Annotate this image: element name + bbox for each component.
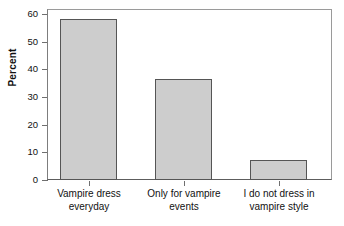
y-tick-label: 50 xyxy=(12,37,38,47)
bar-only-for-vampire-events xyxy=(155,79,212,180)
x-tick-mark xyxy=(184,181,185,186)
y-tick-label: 10 xyxy=(12,147,38,157)
y-tick-label-group-20: 20 xyxy=(10,120,38,130)
y-tick-label: 0 xyxy=(12,175,38,185)
y-tick-label: 30 xyxy=(12,92,38,102)
y-tick-label-group-30: 30 xyxy=(10,92,38,102)
x-axis-label-only-for-vampire-events: Only for vampire events xyxy=(132,188,236,213)
y-tick-mark xyxy=(42,180,48,181)
y-tick-label: 40 xyxy=(12,64,38,74)
y-tick-label-group-50: 50 xyxy=(10,37,38,47)
y-tick-label-group-10: 10 xyxy=(10,147,38,157)
x-axis-label-vampire-dress-everyday: Vampire dress everyday xyxy=(37,188,141,213)
y-tick-label-group-0: 0 xyxy=(10,175,38,185)
y-tick-label: 20 xyxy=(12,120,38,130)
x-axis-label-i-do-not-dress-in-vampire-style: I do not dress in vampire style xyxy=(227,188,331,213)
y-tick-label-group-40: 40 xyxy=(10,64,38,74)
x-tick-mark xyxy=(89,181,90,186)
bar-chart: Percent 60 50 40 30 20 10 0 Vampire dres… xyxy=(0,0,344,226)
x-tick-mark xyxy=(279,181,280,186)
plot-area xyxy=(48,10,331,180)
bar-i-do-not-dress-in-vampire-style xyxy=(250,160,307,180)
y-tick-label: 60 xyxy=(12,9,38,19)
bar-vampire-dress-everyday xyxy=(60,19,117,180)
y-tick-label-group-60: 60 xyxy=(10,9,38,19)
